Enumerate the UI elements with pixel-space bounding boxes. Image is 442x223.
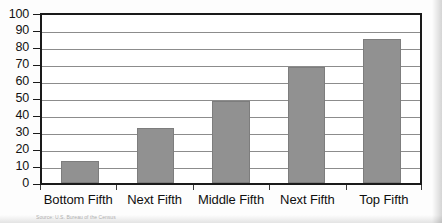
source-caption: Source: U.S. Bureau of the Census bbox=[36, 214, 436, 220]
x-tick-mark-0 bbox=[40, 185, 41, 190]
y-tick-label-90: 90 bbox=[15, 24, 29, 36]
y-tick-label-20: 20 bbox=[15, 143, 29, 155]
bar-bottom-fifth[interactable] bbox=[61, 161, 99, 183]
bar-series bbox=[42, 15, 420, 183]
x-category-label-bottom-fifth: Bottom Fifth bbox=[40, 191, 116, 209]
x-tick-mark-5 bbox=[421, 185, 422, 190]
x-category-label-top-fifth: Top Fifth bbox=[346, 191, 422, 209]
x-tick-mark-3 bbox=[269, 185, 270, 190]
y-tick-label-60: 60 bbox=[15, 75, 29, 87]
y-tick-label-50: 50 bbox=[15, 92, 29, 104]
scanned-page: 100 90 80 70 60 50 40 30 20 10 0 bbox=[0, 0, 442, 223]
y-tick-label-40: 40 bbox=[15, 109, 29, 121]
bar-top-fifth[interactable] bbox=[363, 39, 401, 183]
bar-next-fifth-4[interactable] bbox=[288, 67, 326, 183]
x-category-label-next-fifth-4: Next Fifth bbox=[269, 191, 345, 209]
x-category-label-next-fifth-2: Next Fifth bbox=[116, 191, 192, 209]
x-category-label-middle-fifth: Middle Fifth bbox=[193, 191, 269, 209]
plot-area bbox=[40, 13, 422, 185]
x-axis: Bottom Fifth Next Fifth Middle Fifth Nex… bbox=[40, 191, 422, 209]
bar-next-fifth-2[interactable] bbox=[137, 128, 175, 183]
x-tick-mark-1 bbox=[116, 185, 117, 190]
y-tick-label-70: 70 bbox=[15, 58, 29, 70]
x-tick-mark-4 bbox=[346, 185, 347, 190]
y-tick-label-80: 80 bbox=[15, 41, 29, 53]
x-tick-mark-2 bbox=[193, 185, 194, 190]
y-axis: 100 90 80 70 60 50 40 30 20 10 0 bbox=[0, 0, 40, 223]
bar-chart: 100 90 80 70 60 50 40 30 20 10 0 bbox=[0, 0, 442, 223]
y-tick-label-10: 10 bbox=[15, 160, 29, 172]
y-tick-label-100: 100 bbox=[9, 8, 29, 20]
y-tick-label-30: 30 bbox=[15, 126, 29, 138]
bar-middle-fifth[interactable] bbox=[212, 101, 250, 183]
y-tick-label-0: 0 bbox=[22, 177, 29, 189]
